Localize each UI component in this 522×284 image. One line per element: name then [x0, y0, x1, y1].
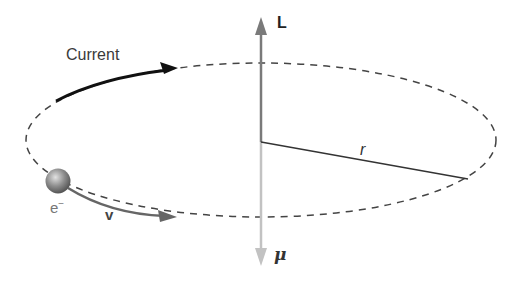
- current-arrowhead-icon: [160, 62, 178, 74]
- current-label: Current: [66, 46, 119, 64]
- velocity-arrow: [68, 188, 165, 216]
- angular-momentum-label: L: [277, 14, 287, 32]
- electron-charge: −: [58, 198, 64, 209]
- mu-arrowhead-icon: [255, 248, 267, 266]
- orbit-diagram: [0, 0, 522, 284]
- L-arrowhead-icon: [255, 17, 267, 35]
- current-arrow: [56, 70, 168, 101]
- electron-label: e−: [50, 198, 64, 216]
- velocity-label: v: [105, 206, 113, 223]
- electron-sphere-icon: [46, 169, 71, 194]
- velocity-arrowhead-icon: [158, 210, 177, 222]
- radius-label: r: [360, 141, 365, 159]
- magnetic-moment-label: μ: [274, 244, 286, 264]
